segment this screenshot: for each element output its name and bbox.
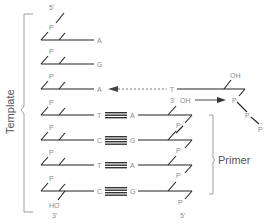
template-3prime-label: 3' (52, 212, 57, 219)
svg-text:P: P (178, 199, 183, 206)
svg-text:P: P (49, 99, 54, 106)
primer-bases: A G A G (130, 112, 135, 195)
hydrogen-bonds (105, 112, 127, 196)
attack-arrow-head (217, 97, 226, 103)
template-backbone (41, 13, 94, 200)
svg-text:P: P (49, 175, 54, 182)
svg-text:C: C (97, 188, 102, 195)
svg-text:P: P (176, 172, 181, 179)
svg-text:C: C (97, 137, 102, 144)
template-label: Template (4, 89, 16, 134)
svg-text:A: A (130, 112, 135, 119)
pairing-arrow-head (108, 86, 118, 92)
gamma-phosphate: P (258, 126, 263, 133)
template-5prime-label: 5' (49, 4, 54, 11)
svg-text:T: T (97, 162, 102, 169)
svg-text:P: P (49, 48, 54, 55)
beta-phosphate: P (245, 112, 250, 119)
incoming-base: T (170, 86, 175, 93)
template-phosphates: P P P P P P P (49, 24, 54, 182)
template-bracket (21, 14, 33, 212)
svg-text:P: P (49, 24, 54, 31)
svg-text:P: P (176, 147, 181, 154)
primer-bracket (209, 115, 215, 194)
svg-text:A: A (97, 37, 102, 44)
primer-phosphates: P P P P (176, 122, 183, 206)
primer-label: Primer (218, 154, 251, 166)
dna-replication-diagram: Template 5' P P P P P P P HO 3' A G A T (0, 0, 270, 224)
svg-text:G: G (130, 188, 135, 195)
svg-text:P: P (49, 124, 54, 131)
template-bases: A G A T C T C (97, 37, 102, 195)
primer-backbone (138, 106, 192, 199)
primer-5prime-label: 5' (180, 212, 185, 219)
svg-text:T: T (97, 112, 102, 119)
svg-text:G: G (97, 61, 102, 68)
svg-text:P: P (176, 122, 181, 129)
svg-text:P: P (49, 149, 54, 156)
primer-3prime-label: 3' (170, 97, 175, 104)
svg-text:P: P (49, 73, 54, 80)
incoming-oh: OH (230, 72, 241, 79)
alpha-phosphate: P (232, 97, 237, 104)
svg-text:G: G (130, 137, 135, 144)
template-3prime-oh: HO (49, 202, 60, 209)
primer-3prime-oh: OH (180, 97, 191, 104)
svg-text:A: A (97, 86, 102, 93)
svg-text:A: A (130, 162, 135, 169)
